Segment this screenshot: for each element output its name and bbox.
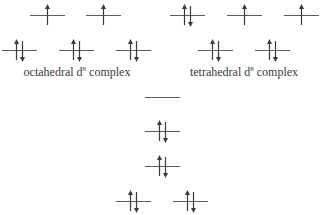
electron-arrows [116,189,151,213]
orbital-level-up [284,3,319,27]
electron-arrows [227,3,262,27]
orbital-level-pair [170,3,205,27]
electron-arrows [2,38,37,62]
orbital-level-pair [116,189,151,213]
spin-up-arrow-icon [299,4,304,25]
orbital-level-pair [255,38,290,62]
spin-down-arrow-icon [134,192,139,213]
spin-up-arrow-icon [242,4,247,25]
electron-arrows [59,38,94,62]
electron-arrows [170,3,205,27]
octahedral-label-suffix: complex [86,65,130,79]
spin-up-arrow-icon [14,39,19,60]
spin-up-arrow-icon [45,4,50,25]
electron-arrows [198,38,233,62]
spin-down-arrow-icon [163,157,168,178]
spin-down-arrow-icon [273,41,278,62]
orbital-level-pair [173,189,208,213]
spin-down-arrow-icon [188,6,193,27]
spin-up-arrow-icon [157,155,162,176]
spin-down-arrow-icon [77,41,82,62]
electron-arrows [173,189,208,213]
spin-down-arrow-icon [191,192,196,213]
spin-down-arrow-icon [134,41,139,62]
spin-up-arrow-icon [210,39,215,60]
electron-arrows [30,3,65,27]
spin-down-arrow-icon [20,41,25,62]
orbital-level-pair [116,38,151,62]
orbital-level-pair [59,38,94,62]
electron-arrows [145,154,180,178]
energy-level-line [145,97,180,98]
spin-up-arrow-icon [128,39,133,60]
spin-up-arrow-icon [182,4,187,25]
tetrahedral-label: tetrahedral d8 complex [190,65,298,80]
octahedral-label: octahedral d8 complex [24,65,131,80]
spin-up-arrow-icon [267,39,272,60]
orbital-level-up [86,3,121,27]
spin-down-arrow-icon [163,122,168,143]
orbital-level-pair [198,38,233,62]
orbital-level-up [227,3,262,27]
electron-arrows [145,119,180,143]
electron-arrows [86,3,121,27]
orbital-level-up [30,3,65,27]
electron-arrows [116,38,151,62]
spin-up-arrow-icon [101,4,106,25]
electron-arrows [255,38,290,62]
tetrahedral-label-suffix: complex [254,65,298,79]
orbital-level-pair [145,154,180,178]
orbital-level-pair [145,119,180,143]
spin-up-arrow-icon [157,120,162,141]
octahedral-label-prefix: octahedral d [24,65,83,79]
spin-up-arrow-icon [71,39,76,60]
orbital-level-empty [145,85,180,109]
spin-down-arrow-icon [216,41,221,62]
spin-up-arrow-icon [128,190,133,211]
spin-up-arrow-icon [185,190,190,211]
electron-arrows [284,3,319,27]
orbital-level-pair [2,38,37,62]
tetrahedral-label-prefix: tetrahedral d [190,65,250,79]
